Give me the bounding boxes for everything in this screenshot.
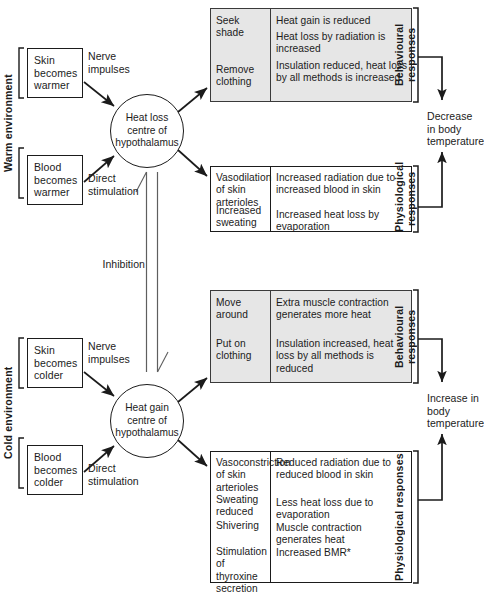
cell-effect: Increased heat loss by evaporation (276, 209, 408, 234)
cell-action: Increased sweating (216, 205, 267, 230)
cell-action: Vasodilation of skin arterioles (216, 172, 267, 209)
arrow-heatgain-to-behavioural (178, 378, 207, 402)
cell-action: Vasoconstriction of skin arterioles (216, 457, 267, 494)
cold-physiological-side-label: Physiological responses (393, 451, 417, 583)
arrow-warm-behavioural-to-outcome (418, 57, 442, 100)
stimulus-box-skin-colder: Skin becomes colder (27, 338, 83, 388)
cell-action: Put on clothing (216, 338, 267, 363)
warm-behavioural-side-label: Behavioural responses (393, 8, 417, 102)
arrow-label-cold-direct-stimulation: Direct stimulation (88, 462, 150, 487)
arrow-label-cold-nerve-impulses: Nerve impulses (88, 340, 152, 365)
cell-action: Sweating reduced (216, 494, 267, 519)
arrow-cold-behavioural-to-outcome (418, 339, 442, 382)
cell-action: Seek shade (216, 15, 267, 40)
cold-behavioural-effects: Extra muscle contraction generates more … (271, 291, 411, 382)
cell-effect: Extra muscle contraction generates more … (276, 297, 408, 322)
stimulus-box-blood-warmer: Blood becomes warmer (27, 155, 83, 205)
heat-gain-centre-label: Heat gain centre of hypothalamus (111, 402, 183, 439)
warm-behavioural-actions: Seek shade Remove clothing (211, 9, 271, 101)
inhibition-label: Inhibition (97, 258, 145, 271)
warm-behavioural-effects: Heat gain is reduced Heat loss by radiat… (271, 9, 411, 101)
cold-physiological-actions: Vasoconstriction of skin arterioles Swea… (211, 452, 271, 582)
stimulus-box-blood-colder: Blood becomes colder (27, 445, 83, 495)
cell-action: Remove clothing (216, 64, 267, 89)
cell-action: Shivering (216, 520, 267, 532)
arrow-cold-skin-to-centre (84, 372, 114, 396)
heat-gain-centre-circle: Heat gain centre of hypothalamus (110, 384, 184, 458)
warm-physiological-side-label: Physiological responses (393, 166, 417, 232)
warm-physiological-actions: Vasodilation of skin arterioles Increase… (211, 167, 271, 231)
heat-loss-centre-circle: Heat loss centre of hypothalamus (110, 94, 184, 168)
cell-effect: Less heat loss due to evaporation (276, 497, 408, 522)
arrow-warm-skin-to-centre (84, 82, 114, 106)
bracket-warm-environment (19, 48, 24, 198)
arrow-label-warm-direct-stimulation: Direct stimulation (88, 172, 150, 197)
cell-effect: Increased BMR* (276, 547, 408, 559)
cold-behavioural-actions: Move around Put on clothing (211, 291, 271, 382)
arrow-heatloss-to-physiological (178, 150, 207, 176)
arrow-heatgain-to-physiological (178, 440, 207, 466)
warm-behavioural-box: Seek shade Remove clothing Heat gain is … (210, 8, 412, 102)
arrow-cold-physiological-to-outcome (418, 434, 442, 500)
warm-physiological-effects: Increased radiation due to increased blo… (271, 167, 411, 231)
cell-action: Move around (216, 297, 267, 322)
cell-effect: Reduced radiation due to reduced blood i… (276, 457, 408, 482)
cell-effect: Muscle contraction generates heat (276, 522, 408, 547)
warm-physiological-box: Vasodilation of skin arterioles Increase… (210, 166, 412, 232)
cell-action: Stimulation of thyroxine secretion (216, 546, 267, 595)
cell-effect: Insulation reduced, heat loss by all met… (276, 60, 408, 85)
side-label-warm-environment: Warm environment (2, 48, 18, 198)
cell-effect: Insulation increased, heat loss by all m… (276, 338, 408, 375)
cell-effect: Increased radiation due to increased blo… (276, 172, 408, 197)
cold-physiological-effects: Reduced radiation due to reduced blood i… (271, 452, 411, 582)
cell-effect: Heat gain is reduced (276, 15, 408, 27)
bracket-cold-environment (19, 338, 24, 488)
cell-effect: Heat loss by radiation is increased (276, 31, 408, 56)
arrow-warm-physiological-to-outcome (418, 152, 442, 207)
cold-behavioural-side-label: Behavioural responses (393, 290, 417, 383)
heat-loss-centre-label: Heat loss centre of hypothalamus (111, 112, 183, 149)
arrow-heatloss-to-behavioural (178, 88, 207, 112)
arrow-label-warm-nerve-impulses: Nerve impulses (88, 50, 152, 75)
warm-outcome-label: Decrease in body temperature (427, 110, 481, 148)
side-label-cold-environment: Cold environment (2, 338, 18, 488)
cold-behavioural-box: Move around Put on clothing Extra muscle… (210, 290, 412, 383)
cold-physiological-box: Vasoconstriction of skin arterioles Swea… (210, 451, 412, 583)
stimulus-box-skin-warmer: Skin becomes warmer (27, 48, 83, 98)
cold-outcome-label: Increase in body temperature (427, 392, 481, 430)
